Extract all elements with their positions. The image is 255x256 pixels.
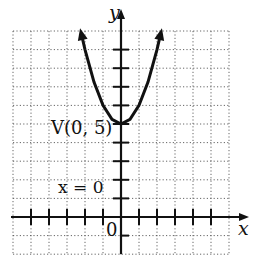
origin-label: 0 <box>106 219 117 240</box>
y-axis-label: y <box>108 1 120 23</box>
axis-of-symmetry-label: x = 0 <box>58 177 103 197</box>
axes <box>11 9 249 254</box>
x-axis-label: x <box>238 217 249 239</box>
parabola-graph: y x V(0, 5) x = 0 0 <box>0 0 255 256</box>
vertex-label: V(0, 5) <box>50 117 112 138</box>
